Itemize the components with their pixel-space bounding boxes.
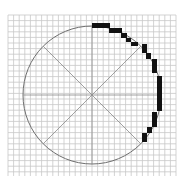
filled-pixel — [126, 38, 131, 42]
filled-pixel — [157, 76, 162, 111]
filled-pixel — [147, 127, 152, 133]
filled-pixel — [142, 133, 147, 142]
filled-pixel — [142, 44, 147, 53]
filled-pixel — [152, 112, 157, 127]
circle-rasterization-diagram — [0, 0, 181, 181]
filled-pixel — [121, 33, 127, 38]
filled-pixel — [131, 42, 138, 46]
octant-lines — [23, 26, 161, 164]
filled-pixel — [152, 59, 157, 73]
filled-pixel — [92, 23, 110, 28]
filled-pixel — [109, 28, 122, 33]
filled-pixel — [146, 53, 151, 59]
